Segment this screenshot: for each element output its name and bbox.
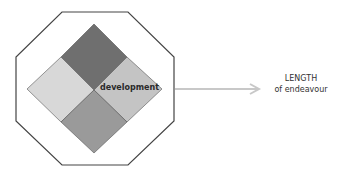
length-subtitle: of endeavour	[268, 84, 334, 95]
length-label: LENGTH of endeavour	[268, 73, 334, 95]
length-title: LENGTH	[268, 73, 334, 84]
development-label: development	[100, 83, 159, 92]
